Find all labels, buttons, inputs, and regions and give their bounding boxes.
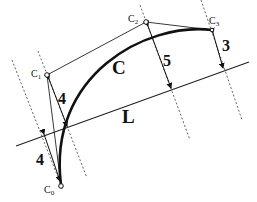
control-point-c3 [210, 28, 214, 32]
label-c2: C2 [128, 13, 139, 26]
control-point-c2 [144, 20, 149, 25]
bezier-curve-C [60, 29, 212, 185]
distance-label-c1: 4 [58, 90, 66, 107]
distance-label-c2: 5 [163, 52, 171, 69]
control-point-c0 [59, 184, 64, 189]
line-label: L [122, 106, 135, 127]
bezier-distance-diagram: C0 C1 C2 C3 4 4 5 3 C L [0, 0, 257, 202]
label-c3: C3 [209, 15, 220, 28]
distance-label-c3: 3 [222, 37, 230, 54]
label-c1: C1 [31, 68, 42, 81]
label-c0: C0 [44, 184, 55, 197]
control-point-c1 [45, 73, 50, 78]
distance-label-c0: 4 [36, 151, 44, 168]
dashed-guide-c3 [201, 0, 242, 120]
curve-label: C [112, 57, 126, 78]
